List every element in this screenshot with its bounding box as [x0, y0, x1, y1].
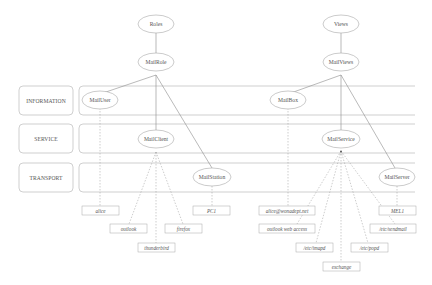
node-mailclient[interactable]: MailClient	[138, 130, 174, 148]
node-mailviews[interactable]: MailViews	[323, 53, 359, 71]
leaf-outlook-web-access[interactable]: outlook web access	[259, 224, 315, 233]
leaf-exchange[interactable]: exchange	[323, 262, 360, 271]
leaf-label: MEL1	[390, 208, 404, 214]
leaf-thunderbird[interactable]: thunderbird	[138, 243, 175, 252]
node-roles[interactable]: Roles	[138, 15, 174, 33]
diagram-canvas: INFORMATION SERVICE TRANSPORT	[0, 0, 432, 285]
node-label: Views	[334, 21, 348, 27]
leaf-label: thunderbird	[144, 245, 169, 251]
node-mailrole[interactable]: MailRole	[138, 53, 174, 71]
node-mailbox[interactable]: MailBox	[270, 91, 306, 109]
lane-body	[79, 124, 415, 153]
leaf-alice[interactable]: alice	[82, 206, 119, 215]
leaf-popd[interactable]: /etc/popd	[351, 243, 388, 252]
leaf-mel1[interactable]: MEL1	[379, 206, 416, 215]
node-mailserver[interactable]: MailServer	[379, 168, 415, 186]
leaf-label: /etc/sendmail	[378, 226, 407, 232]
dashed-edges	[100, 108, 397, 262]
node-views[interactable]: Views	[323, 15, 359, 33]
edge-mailservice-imapd	[316, 151, 341, 243]
leaf-label: /etc/popd	[359, 245, 380, 251]
edge-mailrole-mailstation	[156, 75, 212, 168]
leaf-alice-email[interactable]: alice@wonadept.net	[259, 206, 315, 215]
leaf-label: PC1	[206, 208, 217, 214]
node-mailuser[interactable]: MailUser	[82, 91, 118, 109]
edge-mailviews-mailserver	[341, 75, 395, 168]
node-mailstation[interactable]: MailStation	[193, 168, 231, 186]
node-label: MailServer	[384, 174, 409, 180]
leaf-label: outlook web access	[267, 226, 307, 232]
edge-mailservice-popd	[341, 151, 368, 243]
leaf-firefox[interactable]: firefox	[165, 224, 202, 233]
edge-mailviews-mailbox	[288, 75, 341, 94]
node-label: MailStation	[199, 174, 226, 180]
lane-body	[79, 86, 415, 115]
leaf-pc1[interactable]: PC1	[193, 206, 230, 215]
leaf-label: exchange	[332, 264, 352, 270]
lane-label: SERVICE	[34, 136, 58, 142]
leaf-label: alice	[95, 208, 106, 214]
node-label: MailRole	[145, 59, 167, 65]
solid-edges	[100, 33, 395, 168]
lane-label: TRANSPORT	[29, 175, 63, 181]
leaf-label: outlook	[121, 226, 137, 232]
node-label: MailBox	[278, 97, 298, 103]
leaf-label: firefox	[177, 226, 191, 232]
node-mailservice[interactable]: MailService	[322, 130, 360, 148]
leaf-label: /etc/imapd	[303, 245, 326, 251]
node-label: MailClient	[144, 136, 169, 142]
edge-mailrole-mailuser	[100, 75, 156, 94]
node-label: MailService	[327, 136, 355, 142]
leaf-imapd[interactable]: /etc/imapd	[296, 243, 333, 252]
node-label: MailViews	[329, 59, 354, 65]
lane-body	[79, 163, 415, 192]
leaf-sendmail[interactable]: /etc/sendmail	[370, 224, 416, 233]
node-label: Roles	[150, 21, 163, 27]
lane-label: INFORMATION	[26, 98, 66, 104]
junction-dot	[340, 151, 342, 153]
leaf-label: alice@wonadept.net	[266, 208, 309, 214]
node-label: MailUser	[89, 97, 110, 103]
leaf-outlook[interactable]: outlook	[110, 224, 147, 233]
